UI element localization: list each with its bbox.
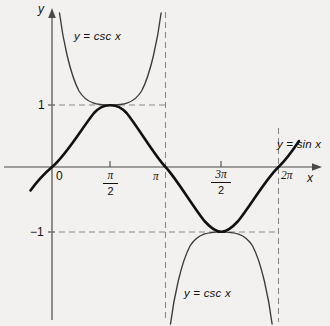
sin-curve: [31, 105, 300, 232]
x-tick-label-pi-over-2: π 2: [103, 170, 118, 197]
csc-curve-upper: [60, 13, 162, 105]
pi-over-2-denominator: 2: [103, 185, 118, 197]
three-pi-over-2-denominator: 2: [211, 184, 231, 196]
chart-figure: y x 0 π 2 π 3π 2 2π 1 −1 y = csc x y = c…: [0, 0, 330, 326]
annotation-csc-top: y = csc x: [74, 31, 121, 43]
fraction-bar: [103, 183, 118, 184]
annotation-csc-bottom: y = csc x: [184, 288, 231, 300]
x-axis-label: x: [307, 172, 313, 184]
three-pi-over-2-numerator: 3π: [211, 169, 231, 182]
plot-canvas: [0, 0, 330, 326]
annotation-sin-right: y = sin x: [277, 139, 321, 151]
x-tick-label-2pi: 2π: [281, 170, 293, 182]
x-tick-label-pi: π: [153, 171, 159, 183]
y-tick-label-negative-one: −1: [30, 226, 44, 238]
pi-over-2-numerator: π: [103, 170, 118, 183]
x-tick-label-origin: 0: [56, 170, 63, 182]
fraction-bar: [211, 182, 231, 183]
y-tick-label-one: 1: [38, 99, 45, 111]
x-tick-label-3pi-over-2: 3π 2: [211, 169, 231, 196]
csc-curve-lower: [171, 232, 273, 324]
y-axis-label: y: [38, 3, 44, 15]
